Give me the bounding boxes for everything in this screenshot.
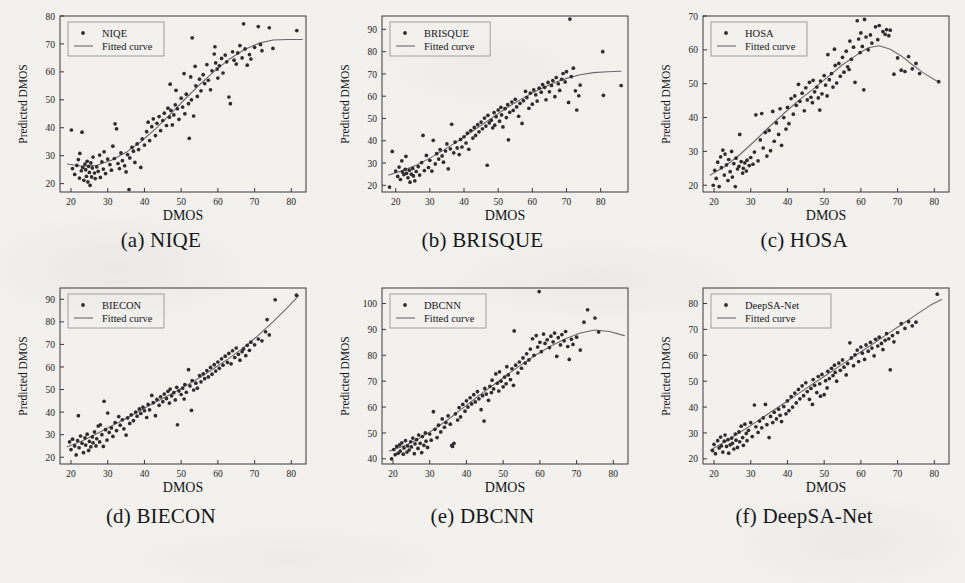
data-point bbox=[441, 160, 445, 164]
scatter-plot-hosa: 20304050607020304050607080DMOSPredicted … bbox=[657, 6, 952, 231]
data-point bbox=[271, 47, 275, 51]
data-point bbox=[229, 362, 233, 366]
data-point bbox=[126, 416, 130, 420]
scatter-plot-biecon: 203040506070809020304050607080DMOSPredic… bbox=[14, 278, 309, 503]
data-point bbox=[535, 99, 539, 103]
data-point bbox=[143, 409, 147, 413]
data-point bbox=[95, 165, 99, 169]
data-point bbox=[562, 339, 566, 343]
data-point bbox=[91, 155, 95, 159]
data-point bbox=[878, 24, 882, 28]
data-point bbox=[563, 80, 567, 84]
data-point bbox=[477, 397, 481, 401]
data-point bbox=[864, 343, 868, 347]
data-point bbox=[89, 161, 93, 165]
data-point bbox=[768, 436, 772, 440]
data-point bbox=[472, 393, 476, 397]
data-point bbox=[551, 79, 555, 83]
data-point bbox=[70, 128, 74, 132]
data-point bbox=[69, 448, 73, 452]
x-axis-label: DMOS bbox=[163, 208, 203, 223]
data-point bbox=[735, 438, 739, 442]
data-point bbox=[551, 340, 555, 344]
data-point bbox=[172, 113, 176, 117]
data-point bbox=[119, 151, 123, 155]
data-point bbox=[406, 444, 410, 448]
data-point bbox=[819, 79, 823, 83]
x-axis-label: DMOS bbox=[484, 480, 524, 495]
y-axis-label: Predicted DMOS bbox=[339, 336, 351, 416]
data-point bbox=[256, 25, 260, 29]
data-point bbox=[166, 106, 170, 110]
data-point bbox=[876, 38, 880, 42]
data-point bbox=[753, 150, 757, 154]
y-tick-label: 60 bbox=[367, 92, 377, 102]
data-point bbox=[433, 427, 437, 431]
data-point bbox=[482, 116, 486, 120]
data-point bbox=[113, 122, 117, 126]
x-axis-label: DMOS bbox=[806, 208, 846, 223]
data-point bbox=[730, 436, 734, 440]
data-point bbox=[417, 173, 421, 177]
data-point bbox=[154, 134, 158, 138]
data-point bbox=[823, 393, 827, 397]
panel-caption-e: (e) DBCNN bbox=[322, 504, 644, 529]
data-point bbox=[190, 379, 194, 383]
data-point bbox=[446, 167, 450, 171]
data-point bbox=[84, 168, 88, 172]
data-point bbox=[818, 108, 822, 112]
y-tick-label: 30 bbox=[689, 429, 699, 439]
y-tick-label: 20 bbox=[689, 181, 699, 191]
data-point bbox=[150, 125, 154, 129]
data-point bbox=[210, 372, 214, 376]
data-point bbox=[174, 88, 178, 92]
data-point bbox=[863, 358, 867, 362]
data-point bbox=[99, 176, 103, 180]
data-point bbox=[205, 63, 209, 67]
data-point bbox=[521, 356, 525, 360]
data-point bbox=[85, 159, 89, 163]
data-point bbox=[780, 143, 784, 147]
data-point bbox=[443, 149, 447, 153]
data-point bbox=[732, 162, 736, 166]
data-point bbox=[490, 378, 494, 382]
data-point bbox=[552, 331, 556, 335]
data-point bbox=[751, 162, 755, 166]
data-point bbox=[754, 113, 758, 117]
x-tick-label: 20 bbox=[66, 197, 76, 207]
data-point bbox=[192, 114, 196, 118]
data-point bbox=[914, 62, 918, 66]
data-point bbox=[194, 381, 198, 385]
panel-f: 2030405060708020304050607080DMOSPredicte… bbox=[643, 272, 965, 544]
y-tick-label: 30 bbox=[46, 430, 56, 440]
data-point bbox=[811, 101, 815, 105]
x-tick-label: 80 bbox=[608, 469, 618, 479]
data-point bbox=[111, 435, 115, 439]
data-point bbox=[245, 343, 249, 347]
data-point bbox=[403, 439, 407, 443]
data-point bbox=[137, 407, 141, 411]
data-point bbox=[903, 70, 907, 74]
data-point bbox=[506, 138, 510, 142]
data-point bbox=[833, 363, 837, 367]
data-point bbox=[725, 163, 729, 167]
panel-b: 203040506070809020304050607080DMOSPredic… bbox=[322, 0, 644, 272]
data-point bbox=[853, 80, 857, 84]
data-point bbox=[506, 103, 510, 107]
data-point bbox=[837, 62, 841, 66]
data-point bbox=[571, 343, 575, 347]
data-point bbox=[473, 134, 477, 138]
data-point bbox=[519, 366, 523, 370]
x-tick-label: 30 bbox=[103, 469, 113, 479]
data-point bbox=[199, 380, 203, 384]
data-point bbox=[177, 118, 181, 122]
data-point bbox=[549, 84, 553, 88]
data-point bbox=[448, 147, 452, 151]
data-point bbox=[841, 55, 845, 59]
data-point bbox=[773, 410, 777, 414]
legend-marker-icon bbox=[724, 31, 728, 35]
data-point bbox=[857, 37, 861, 41]
data-point bbox=[764, 403, 768, 407]
data-point bbox=[411, 167, 415, 171]
data-point bbox=[169, 109, 173, 113]
